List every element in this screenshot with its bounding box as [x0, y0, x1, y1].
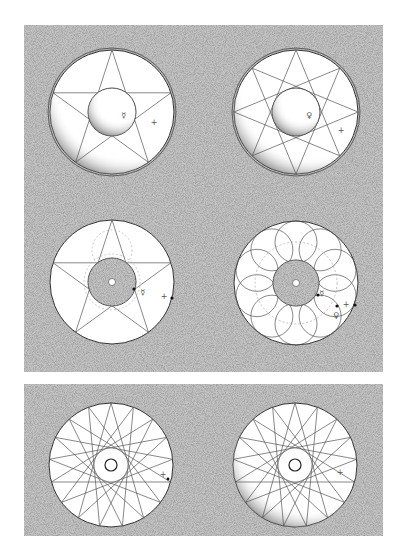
planet-symbol: ☿	[320, 289, 325, 298]
flat-seventeen-star: +	[49, 403, 173, 527]
planet-symbol: +	[160, 470, 167, 479]
planet-symbol: ☿	[141, 288, 146, 297]
planet-symbol: +	[343, 300, 350, 309]
planet-symbol: ♀	[333, 311, 339, 320]
planet-symbol: +	[338, 126, 345, 135]
planet-symbol: ☿	[122, 111, 127, 120]
flat-pentagram-orbit: ☿+	[50, 220, 174, 344]
ring-of-circles: ☿♀+	[234, 221, 358, 345]
planet-symbol: ♀	[306, 111, 312, 120]
planet-symbol: +	[337, 468, 344, 477]
planet-symbol: +	[151, 118, 158, 127]
shaded-seventeen-star: +	[233, 403, 357, 527]
geometric-figure: ☿+♀+☿+☿♀+++	[0, 0, 403, 550]
planet-symbol: +	[161, 292, 168, 301]
